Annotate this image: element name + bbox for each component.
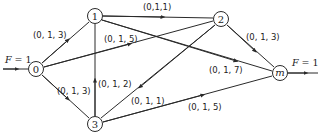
edge-label-1-2: (0,1,1) [143,2,171,12]
edge-0-3: (0, 1, 3) [42,75,91,118]
node-0: 0 [29,62,44,77]
edge-label-0-3: (0, 1, 3) [57,86,91,96]
edge-label-2-3: (0, 1, 1) [131,96,165,106]
edge-label-1-m: (0, 1, 7) [209,65,243,75]
svg-text:3: 3 [92,119,98,130]
node-1: 1 [88,9,103,24]
node-m: m [273,66,288,81]
node-3: 3 [88,117,103,132]
svg-text:m: m [275,67,284,78]
svg-text:1: 1 [92,11,98,22]
edge-label-0-2: (0, 1, 5) [104,34,138,44]
edge-label-3-1: (0, 1, 2) [98,79,132,89]
source-flow-label: F = 1 [4,54,32,65]
edge-1-2: (0,1,1) [103,2,213,18]
edge-label-2-m: (0, 1, 3) [246,32,280,42]
edge-label-0-1: (0, 1, 3) [33,30,67,40]
sink-flow-label: F = 1 [291,57,319,68]
flow-network-diagram: F = 1 F = 1 (0, 1, 3) (0, 1, 5) (0, 1, 3… [0,0,321,138]
svg-text:0: 0 [33,64,39,75]
node-2: 2 [214,12,229,27]
sink-outflow: F = 1 [288,57,319,73]
svg-text:2: 2 [218,14,224,25]
edge-label-3-m: (0, 1, 5) [188,102,222,112]
source-inflow: F = 1 [3,54,32,69]
